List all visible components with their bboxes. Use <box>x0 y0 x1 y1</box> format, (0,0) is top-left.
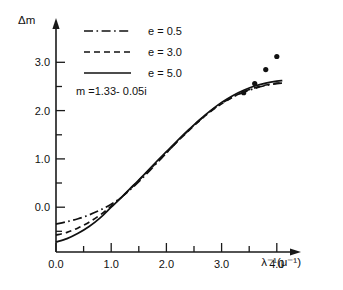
x-axis-title: λ⁻¹(μ⁻¹) <box>261 256 301 268</box>
delta-m-vs-inverse-lambda-chart: 0.0 1.0 2.0 3.0 0.0 1.0 2.0 3.0 4.0 Δm λ… <box>0 0 343 290</box>
curve-e-3-0 <box>56 83 282 236</box>
x-tick-label: 1.0 <box>104 258 119 270</box>
y-tick-label: 1.0 <box>35 153 50 165</box>
x-tick-label: 3.0 <box>214 258 229 270</box>
x-axis-ticks <box>56 243 277 252</box>
legend-label-e-5-0: e = 5.0 <box>148 67 182 79</box>
x-axis-arrowhead <box>290 248 301 255</box>
x-tick-label: 2.0 <box>159 258 174 270</box>
refractive-index-annotation: m =1.33- 0.05i <box>76 85 147 97</box>
y-tick-label: 2.0 <box>35 105 50 117</box>
legend: e = 0.5 e = 3.0 e = 5.0 m =1.33- 0.05i <box>76 25 182 97</box>
curve-e-0-5 <box>56 83 282 224</box>
curves-group <box>56 81 282 242</box>
legend-label-e-0-5: e = 0.5 <box>148 25 182 37</box>
y-axis-title: Δm <box>18 14 35 26</box>
x-axis-tick-labels: 0.0 1.0 2.0 3.0 4.0 <box>48 258 284 270</box>
scatter-point <box>252 81 257 86</box>
scatter-point <box>274 54 279 59</box>
y-tick-label: 0.0 <box>35 201 50 213</box>
y-axis-tick-labels: 0.0 1.0 2.0 3.0 <box>35 56 50 213</box>
y-axis-ticks <box>56 62 65 231</box>
y-axis-arrowhead <box>52 18 59 29</box>
figure-container: 0.0 1.0 2.0 3.0 0.0 1.0 2.0 3.0 4.0 Δm λ… <box>0 0 343 290</box>
scatter-point <box>241 90 246 95</box>
scatter-point <box>263 67 268 72</box>
curve-e-5-0 <box>56 81 282 242</box>
legend-label-e-3-0: e = 3.0 <box>148 46 182 58</box>
y-tick-label: 3.0 <box>35 56 50 68</box>
x-tick-label: 0.0 <box>48 258 63 270</box>
